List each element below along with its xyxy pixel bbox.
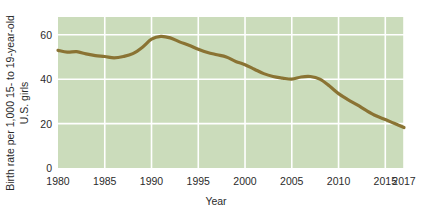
- plot-area-background: [58, 17, 404, 168]
- x-tick-label: 2017: [392, 175, 416, 187]
- x-tick-label: 1980: [46, 175, 70, 187]
- x-tick-label: 2005: [280, 175, 304, 187]
- x-tick-label: 2010: [327, 175, 351, 187]
- x-tick-label: 2000: [233, 175, 257, 187]
- x-axis-title: Year: [205, 195, 227, 207]
- y-tick-label: 0: [46, 162, 52, 174]
- y-tick-label: 60: [40, 29, 52, 41]
- x-tick-label: 1985: [93, 175, 117, 187]
- y-tick-label: 20: [40, 118, 52, 130]
- x-tick-label: 1995: [187, 175, 211, 187]
- y-tick-label: 40: [40, 73, 52, 85]
- x-tick-label: 1990: [140, 175, 164, 187]
- line-chart: 0204060 19801985199019952000200520102015…: [0, 0, 427, 212]
- chart-container: 0204060 19801985199019952000200520102015…: [0, 0, 427, 212]
- y-axis-title-line-2: U.S. girls: [18, 82, 30, 125]
- y-axis-title-line-1: Birth rate per 1,000 15- to 19-year-old: [4, 15, 16, 191]
